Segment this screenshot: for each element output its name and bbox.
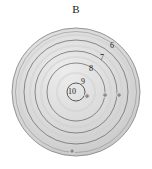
target-figure: B — [0, 0, 152, 169]
target-diagram — [0, 0, 152, 169]
shot-hole — [85, 94, 90, 99]
ring-score-label-9: 9 — [81, 78, 85, 86]
target-outer-ring — [12, 28, 140, 156]
ring-score-label-6: 6 — [110, 42, 114, 50]
ring-score-label-10: 10 — [68, 88, 76, 96]
ring-score-label-8: 8 — [89, 65, 93, 73]
shot-hole — [103, 93, 108, 98]
shot-hole — [70, 149, 75, 154]
shot-hole — [117, 93, 122, 98]
figure-title: B — [0, 3, 152, 15]
ring-score-label-7: 7 — [100, 54, 104, 62]
